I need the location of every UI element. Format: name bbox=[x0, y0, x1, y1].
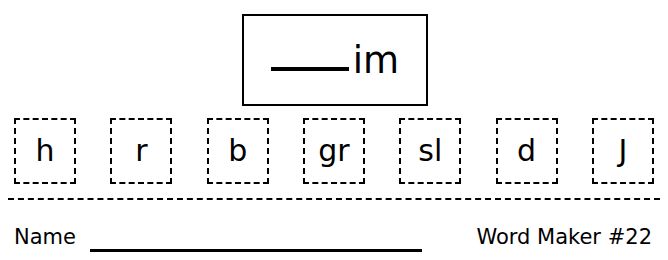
blank-write-line bbox=[271, 67, 349, 71]
word-ending-box: im bbox=[242, 14, 428, 106]
worksheet-footer: Name Word Maker #22 bbox=[10, 215, 658, 255]
name-input-line[interactable] bbox=[90, 249, 422, 252]
letter-tile-label: sl bbox=[418, 136, 442, 166]
letter-tile-3[interactable]: b bbox=[207, 118, 269, 184]
letter-tile-label: r bbox=[135, 136, 147, 166]
cut-line-divider bbox=[8, 198, 660, 200]
letter-tile-label: b bbox=[228, 136, 247, 166]
letter-tile-5[interactable]: sl bbox=[399, 118, 461, 184]
worksheet-page: im h r b gr sl d J Name Word Maker #22 bbox=[0, 0, 668, 260]
letter-tile-6[interactable]: d bbox=[496, 118, 558, 184]
letter-tile-4[interactable]: gr bbox=[303, 118, 365, 184]
letter-tile-7[interactable]: J bbox=[592, 118, 654, 184]
letter-tile-row: h r b gr sl d J bbox=[14, 118, 654, 186]
letter-tile-label: gr bbox=[318, 136, 349, 166]
letter-tile-label: J bbox=[619, 136, 628, 166]
letter-tile-label: d bbox=[517, 136, 536, 166]
name-label: Name bbox=[14, 225, 76, 249]
worksheet-title: Word Maker #22 bbox=[476, 225, 652, 249]
letter-tile-1[interactable]: h bbox=[14, 118, 76, 184]
word-ending-content: im bbox=[244, 16, 426, 104]
word-ending-text: im bbox=[353, 42, 399, 79]
letter-tile-2[interactable]: r bbox=[110, 118, 172, 184]
letter-tile-label: h bbox=[35, 136, 54, 166]
